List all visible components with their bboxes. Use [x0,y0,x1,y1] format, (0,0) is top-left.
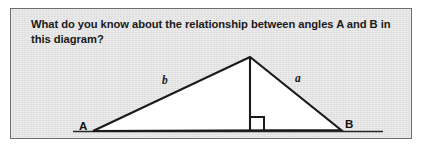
side-label-b: b [162,74,168,86]
side-label-a: a [295,72,301,84]
vertex-label-a: A [79,120,87,132]
triangle-shape [93,57,341,131]
screenshot-root: What do you know about the relationship … [0,0,424,149]
triangle-diagram: A B b a [11,39,412,139]
vertex-label-b: B [345,118,353,130]
question-panel: What do you know about the relationship … [10,8,412,139]
